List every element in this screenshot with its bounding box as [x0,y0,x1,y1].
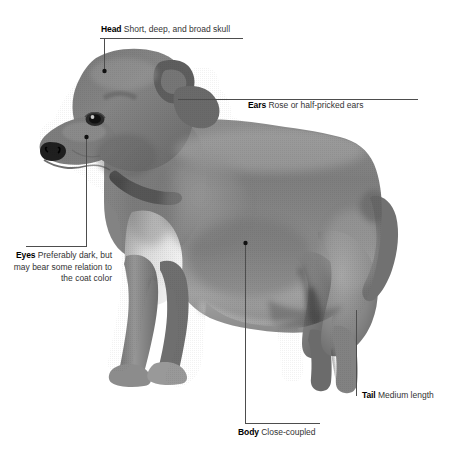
eye-catchlight [91,115,95,119]
callout-body: Body Close-coupled [238,427,316,439]
callout-head: Head Short, deep, and broad skull [101,24,230,36]
callout-ears: Ears Rose or half-pricked ears [248,100,363,112]
callout-eyes-term: Eyes [16,250,35,260]
callout-body-description: Close-coupled [261,427,315,437]
shading-group [0,0,449,449]
callout-head-description: Short, deep, and broad skull [124,24,230,34]
callout-tail-description: Medium length [378,390,434,400]
callout-ears-description: Rose or half-pricked ears [268,100,363,110]
callout-head-term: Head [101,24,121,34]
leader-dot-body [243,241,247,245]
callout-tail: Tail Medium length [362,390,434,402]
callout-body-term: Body [238,427,259,437]
callout-tail-term: Tail [362,390,376,400]
leader-dot-eyes [84,135,88,139]
breed-anatomy-diagram: Head Short, deep, and broad skull Ears R… [0,0,449,449]
callout-ears-term: Ears [248,100,266,110]
dog-illustration [0,0,449,449]
callout-eyes: Eyes Preferably dark, but may bear some … [12,250,112,285]
leader-dot-head [102,69,106,73]
